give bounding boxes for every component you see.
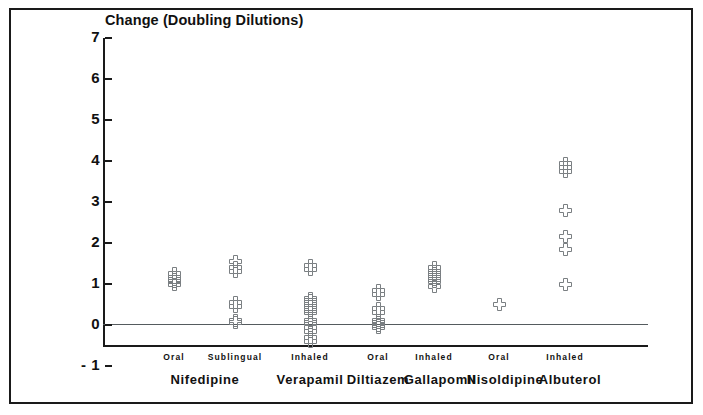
y-tick-neg1 [105,365,112,367]
figure-panel: Change (Doubling Dilutions) 76543210- 1 … [0,0,703,415]
drug-label-nifedipine: Nifedipine [171,372,240,387]
data-point-marker [559,204,572,217]
y-tick-label-5: 5 [66,110,100,127]
y-tick-label-0: 0 [66,315,100,332]
y-tick-label-neg1: - 1 [66,356,100,373]
data-point-marker [493,298,506,311]
data-point-marker [372,288,385,301]
data-point-marker [559,278,572,291]
data-point-marker [559,165,572,178]
data-point-marker [304,335,317,348]
drug-label-gallapomil: Gallapomil [404,372,476,387]
drug-label-diltiazem: Diltiazem [347,372,409,387]
route-label-verapamil-inhaled: Inhaled [291,352,328,362]
data-point-marker [559,230,572,243]
y-tick-label-2: 2 [66,233,100,250]
data-point-marker [168,278,181,291]
data-point-marker [229,265,242,278]
data-point-marker [304,263,317,276]
drug-label-nisoldipine: Nisoldipine [467,372,544,387]
data-point-marker [559,243,572,256]
route-label-nifedipine-oral: Oral [163,352,184,362]
data-point-marker [372,321,385,334]
y-tick-label-4: 4 [66,151,100,168]
route-label-albuterol-inhaled: Inhaled [546,352,583,362]
y-tick-label-6: 6 [66,69,100,86]
route-label-gallapomil-inhaled: Inhaled [415,352,452,362]
data-point-marker [229,300,242,313]
scatter-plot-area [103,38,648,325]
x-axis-line [103,345,648,347]
y-tick-label-3: 3 [66,192,100,209]
y-axis-title: Change (Doubling Dilutions) [105,12,303,28]
drug-label-verapamil: Verapamil [277,372,344,387]
route-label-nifedipine-sublingual: Sublingual [208,352,262,362]
route-label-nisoldipine-oral: Oral [488,352,509,362]
y-tick-label-7: 7 [66,28,100,45]
route-label-diltiazem-oral: Oral [367,352,388,362]
data-point-marker [428,280,441,293]
y-axis-tick-labels: 76543210- 1 [60,0,100,400]
y-tick-label-1: 1 [66,274,100,291]
data-point-marker [229,316,242,329]
drug-label-albuterol: Albuterol [539,372,601,387]
